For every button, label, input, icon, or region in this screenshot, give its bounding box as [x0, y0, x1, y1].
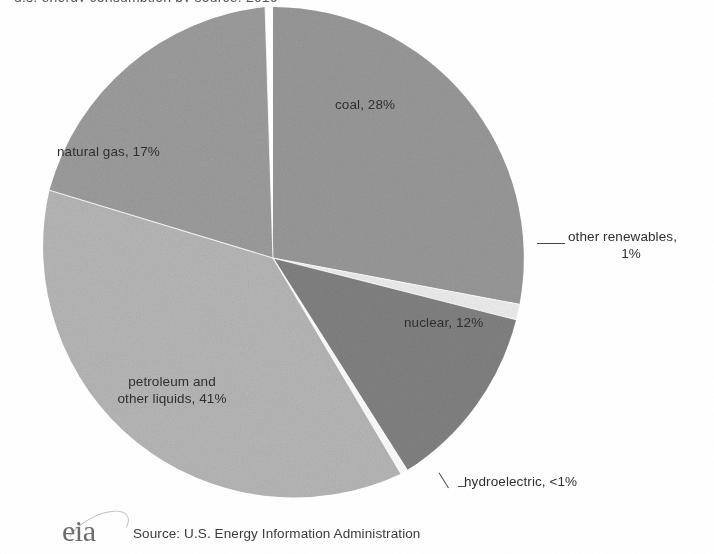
- pie-chart-figure: u.s. energy consumption by source, 2016: [0, 0, 714, 554]
- pie-chart: [19, 4, 527, 512]
- chart-title-cropped: u.s. energy consumption by source, 2016: [14, 0, 278, 2]
- pie-label-natural-gas: natural gas, 17%: [57, 143, 160, 160]
- pie-label-other-renewables: other renewables, 1%: [568, 228, 710, 262]
- pie-label-other-renewables-line1: other renewables,: [568, 229, 677, 244]
- figure-footer: eia Source: U.S. Energy Information Admi…: [0, 514, 714, 554]
- pie-slice-coal: [273, 7, 524, 304]
- pie-label-petroleum: petroleum and other liquids, 41%: [82, 373, 262, 407]
- pie-slices: [43, 7, 524, 498]
- source-attribution: Source: U.S. Energy Information Administ…: [133, 526, 420, 541]
- leader-line-other-renewables: [537, 243, 565, 244]
- pie-label-petroleum-line1: petroleum and: [128, 374, 216, 389]
- pie-label-coal: coal, 28%: [335, 96, 395, 113]
- pie-label-petroleum-line2: other liquids, 41%: [117, 391, 226, 406]
- pie-svg: [19, 4, 527, 512]
- pie-label-hydroelectric: hydroelectric, <1%: [464, 473, 577, 490]
- pie-label-other-renewables-line2: 1%: [568, 245, 710, 262]
- pie-label-nuclear: nuclear, 12%: [404, 314, 483, 331]
- eia-logo: eia: [62, 514, 95, 548]
